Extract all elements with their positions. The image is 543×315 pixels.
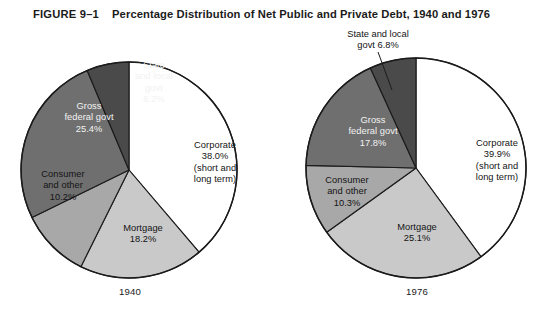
- year-label-1976: 1976: [386, 286, 448, 297]
- slice-label-consumer-1976: Consumer and other 10.3%: [310, 175, 384, 209]
- slice-label-state-1976: State and local govt 6.8%: [322, 29, 434, 52]
- slice-label-corporate-1976: Corporate 39.9% (short and long term): [458, 138, 536, 184]
- slice-label-mortgage-1940: Mortgage 18.2%: [105, 223, 181, 246]
- slice-label-federal-1940: Gross federal govt 25.4%: [48, 101, 130, 135]
- slice-label-corporate-1940: Corporate 38.0% (short and long term): [178, 140, 252, 186]
- slice-label-state-1940: State and local govt 6.2%: [130, 60, 178, 106]
- year-label-1940: 1940: [99, 286, 161, 297]
- figure-root: FIGURE 9–1 Percentage Distribution of Ne…: [0, 0, 543, 315]
- slice-label-mortgage-1976: Mortgage 25.1%: [378, 222, 456, 245]
- slice-label-consumer-1940: Consumer and other 10.2%: [27, 169, 99, 203]
- slice-label-federal-1976: Gross federal govt 17.8%: [332, 115, 414, 149]
